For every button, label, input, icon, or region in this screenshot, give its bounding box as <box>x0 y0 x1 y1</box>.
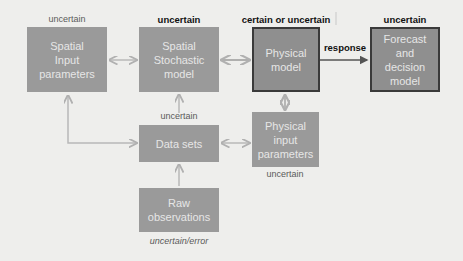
annotation-forecast: uncertain <box>384 14 427 25</box>
node-label: Raw observations <box>148 196 210 224</box>
annotation-physical-model: certain or uncertain <box>242 14 331 25</box>
node-spatial-input-parameters: Spatial Input parameters <box>27 27 107 92</box>
node-label: Forecast and decision model <box>384 32 427 88</box>
node-label: Spatial Input parameters <box>39 39 95 81</box>
node-physical-model: Physical model <box>252 27 320 92</box>
annotation-raw-observations: uncertain/error <box>150 236 209 246</box>
arrow-spatial-input-datasets <box>68 96 136 143</box>
edge-label-response: response <box>324 42 366 53</box>
annotation-data-sets: uncertain <box>160 111 197 121</box>
annotation-physical-input: uncertain <box>266 169 303 179</box>
annotation-spatial-stochastic: uncertain <box>158 14 201 25</box>
node-raw-observations: Raw observations <box>139 188 219 232</box>
node-spatial-stochastic-model: Spatial Stochastic model <box>139 27 219 92</box>
annotation-spatial-input: uncertain <box>48 14 85 24</box>
node-forecast-decision-model: Forecast and decision model <box>370 27 440 92</box>
node-label: Data sets <box>156 137 202 151</box>
node-data-sets: Data sets <box>139 125 219 162</box>
node-physical-input-parameters: Physical input parameters <box>252 112 319 167</box>
node-label: Spatial Stochastic model <box>154 39 205 81</box>
node-label: Physical input parameters <box>258 119 314 161</box>
node-label: Physical model <box>266 46 307 74</box>
